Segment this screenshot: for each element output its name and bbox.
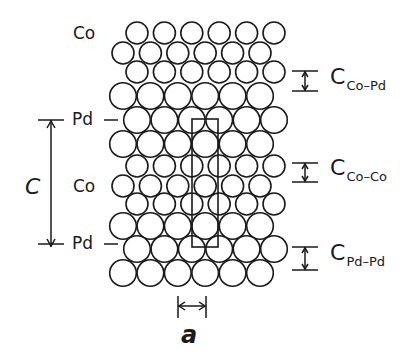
c-co-co-sub: Co–Co [346, 169, 387, 184]
pd-atom [165, 213, 192, 240]
co-atom [236, 22, 258, 44]
co-atom [112, 42, 134, 64]
co-atom [208, 22, 230, 44]
pd-atom [110, 83, 137, 110]
c-co-pd-main: C [330, 64, 345, 89]
pd-atom [219, 260, 246, 287]
co-atom [153, 193, 175, 215]
pd-atom [247, 260, 274, 287]
pd-atom [233, 107, 260, 134]
c-co-pd-sub: Co–Pd [346, 78, 386, 93]
co-atom [263, 193, 285, 215]
layer-label-pd-lower: Pd [72, 235, 93, 252]
interlayer-spacing-brackets [292, 71, 318, 270]
co-atom [153, 22, 175, 44]
a-dimension-arrow [178, 296, 206, 318]
pd-atom [219, 83, 246, 110]
pd-atom [192, 83, 219, 110]
co-atom [263, 61, 285, 83]
pd-atom [151, 107, 178, 134]
co-atom [249, 42, 271, 64]
pd-atom [247, 131, 274, 158]
pd-atom [110, 131, 137, 158]
pd-atom [247, 213, 274, 240]
pd-atom [206, 236, 233, 263]
pd-atom [233, 236, 260, 263]
pd-atom [110, 260, 137, 287]
co-atom [153, 155, 175, 177]
layer-label-pd-upper: Pd [72, 111, 93, 128]
c-lattice-parameter-label: C [25, 176, 40, 198]
co-atom [194, 42, 216, 64]
c-pd-pd-label: CPd–Pd [330, 242, 385, 268]
pd-atom [124, 107, 151, 134]
co-atom [236, 155, 258, 177]
pd-atom [165, 131, 192, 158]
pd-atom [192, 213, 219, 240]
c-co-pd-label: CCo–Pd [330, 66, 386, 92]
pd-atom [165, 260, 192, 287]
co-atom [236, 193, 258, 215]
co-atom [126, 22, 148, 44]
co-atom [126, 61, 148, 83]
co-atom [112, 175, 134, 197]
pd-atom [261, 107, 288, 134]
co-atom [153, 61, 175, 83]
co-atom [208, 193, 230, 215]
co-atom [263, 155, 285, 177]
c-co-co-label: CCo–Co [330, 157, 387, 183]
co-atom [181, 22, 203, 44]
co-atom [263, 22, 285, 44]
co-atom [126, 155, 148, 177]
co-atom [222, 42, 244, 64]
layer-label-co-middle: Co [73, 178, 95, 195]
pd-atom [261, 236, 288, 263]
co-atom [139, 42, 161, 64]
co-atom [236, 61, 258, 83]
pd-atom [192, 131, 219, 158]
pd-atom [137, 260, 164, 287]
c-dimension-arrow [47, 120, 55, 247]
co-atom [208, 155, 230, 177]
pd-atom [219, 213, 246, 240]
co-atom [167, 42, 189, 64]
co-atom [181, 61, 203, 83]
co-atom [208, 61, 230, 83]
pd-atom [192, 260, 219, 287]
pd-atom [124, 236, 151, 263]
pd-atom [110, 213, 137, 240]
c-pd-pd-sub: Pd–Pd [346, 254, 385, 269]
pd-atom [137, 213, 164, 240]
pd-atom [137, 131, 164, 158]
pd-atom [165, 83, 192, 110]
c-co-co-main: C [330, 155, 345, 180]
pd-atom [206, 107, 233, 134]
pd-atom [137, 83, 164, 110]
pd-atom [219, 131, 246, 158]
co-atom [126, 193, 148, 215]
a-lattice-parameter-label: a [181, 323, 197, 347]
c-pd-pd-main: C [330, 240, 345, 265]
layer-label-co-top: Co [73, 25, 95, 42]
pd-atom [151, 236, 178, 263]
pd-atom [247, 83, 274, 110]
